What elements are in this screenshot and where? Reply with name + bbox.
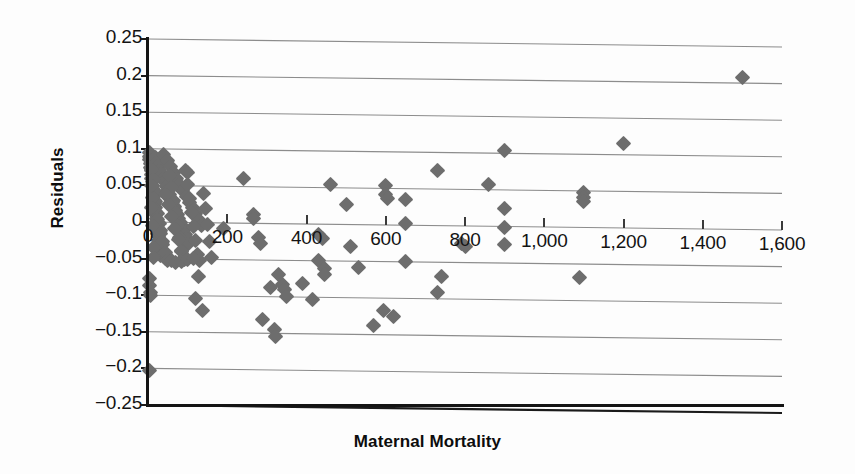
y-axis-tick-label: 0.2	[116, 63, 142, 85]
data-point	[195, 303, 211, 319]
data-point	[398, 192, 414, 208]
data-point	[305, 292, 321, 308]
data-point	[429, 285, 445, 301]
x-axis-tick-mark	[385, 216, 387, 225]
y-axis-tick-label: 0.05	[106, 172, 142, 194]
data-point	[366, 317, 382, 333]
data-point	[235, 171, 251, 187]
y-axis-title: Residuals	[48, 108, 68, 268]
x-axis-tick-label: 400	[291, 227, 322, 249]
data-point	[196, 186, 212, 202]
x-axis-tick-label: 1,600	[759, 233, 806, 255]
data-point	[350, 259, 366, 275]
y-axis-tick-label: −0.05	[95, 246, 142, 268]
x-axis-tick-mark	[623, 219, 625, 228]
data-point	[295, 275, 311, 291]
x-axis-tick-label: 600	[370, 228, 401, 250]
data-point	[497, 200, 513, 216]
x-axis-tick-mark	[781, 221, 783, 230]
x-axis-tick-label: 1,200	[600, 231, 647, 253]
data-point	[497, 236, 513, 252]
y-axis-tick-label: 0.1	[116, 136, 142, 158]
y-axis-tick-label: 0.15	[106, 99, 142, 121]
x-axis-tick-mark	[702, 220, 704, 229]
x-axis-tick-mark	[464, 217, 466, 226]
x-axis-line	[146, 404, 784, 407]
x-axis-tick-label: 200	[212, 226, 243, 248]
data-point	[191, 269, 207, 285]
y-axis-tick-label: −0.2	[105, 355, 142, 377]
data-point	[338, 196, 354, 212]
y-axis-tick-label: −0.25	[95, 392, 142, 414]
y-axis-line	[146, 37, 149, 407]
data-point	[398, 254, 414, 270]
y-axis-tick-label: −0.15	[95, 319, 142, 341]
data-point	[142, 363, 158, 379]
x-axis-tick-mark	[306, 215, 308, 224]
data-point	[322, 176, 338, 192]
data-point	[342, 239, 358, 255]
y-axis-tick-label: 0.25	[106, 26, 142, 48]
data-point	[255, 312, 271, 328]
x-axis-tick-label: 1,400	[679, 232, 726, 254]
data-point	[735, 70, 751, 86]
y-axis-tick-label: −0.1	[105, 282, 142, 304]
x-axis-tick-label: 800	[449, 229, 480, 251]
x-axis-tick-mark	[543, 218, 545, 227]
x-axis-title: Maternal Mortality	[0, 432, 855, 452]
data-point	[497, 219, 513, 235]
data-point	[497, 143, 513, 159]
data-point	[616, 135, 632, 151]
data-point	[572, 270, 588, 286]
y-axis-tick-label: 0	[132, 209, 142, 231]
x-axis-tick-label: 1,000	[521, 230, 568, 252]
data-point	[433, 268, 449, 284]
scatter-chart-figure: Residuals 0.250.20.150.10.050−0.05−0.1−0…	[0, 0, 855, 474]
x-axis-tick-mark	[226, 214, 228, 223]
data-point	[481, 177, 497, 193]
data-point	[429, 163, 445, 179]
data-point	[204, 249, 220, 265]
